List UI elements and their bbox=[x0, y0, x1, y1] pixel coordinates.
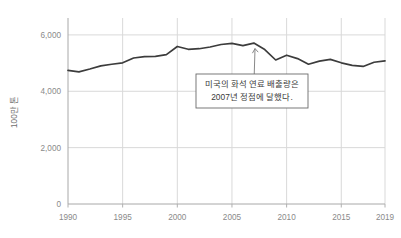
y-tick-label: 2,000 bbox=[41, 144, 62, 153]
x-tick-label: 2000 bbox=[168, 213, 187, 222]
chart-container: 02,0004,0006,000 19901995200020052010201… bbox=[0, 0, 401, 238]
x-tick-label: 1990 bbox=[59, 213, 78, 222]
annotation-line-2: 2007년 정점에 달했다. bbox=[211, 92, 293, 102]
line-chart: 02,0004,0006,000 19901995200020052010201… bbox=[0, 0, 401, 238]
y-tick-label: 6,000 bbox=[41, 31, 62, 40]
x-tick-label: 2019 bbox=[376, 213, 395, 222]
x-tick-label: 1995 bbox=[114, 213, 133, 222]
x-tick-label: 2005 bbox=[223, 213, 242, 222]
y-tick-label: 4,000 bbox=[41, 87, 62, 96]
y-tick-label: 0 bbox=[56, 200, 61, 209]
x-tick-label: 2015 bbox=[332, 213, 351, 222]
y-axis-title: 100만 톤 bbox=[10, 96, 19, 128]
x-tick-label: 2010 bbox=[278, 213, 297, 222]
annotation-line-1: 미국의 화석 연료 배출량은 bbox=[205, 79, 300, 89]
